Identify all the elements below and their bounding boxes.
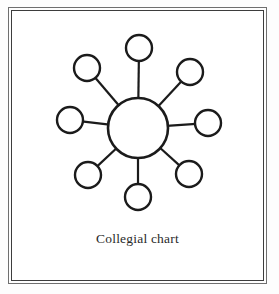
satellite-node-bottom-left[interactable]: [75, 162, 101, 188]
spoke-n-bottom-right: [159, 147, 180, 166]
spoke-n-top-right: [158, 81, 182, 107]
spoke-n-right: [167, 124, 197, 126]
satellite-node-top-right[interactable]: [177, 59, 203, 85]
satellite-node-top-left[interactable]: [74, 55, 100, 81]
hub-node[interactable]: [108, 98, 168, 158]
node-layer: [57, 35, 221, 210]
figure-content-area: Collegial chart: [11, 10, 264, 281]
satellite-node-bottom[interactable]: [125, 184, 151, 210]
satellite-node-bottom-right[interactable]: [176, 161, 202, 187]
satellite-node-top[interactable]: [126, 35, 152, 61]
satellite-node-left[interactable]: [57, 107, 83, 133]
figure-caption: Collegial chart: [11, 231, 264, 247]
satellite-node-right[interactable]: [195, 110, 221, 136]
spoke-n-left: [82, 121, 110, 124]
spoke-n-bottom-left: [97, 148, 117, 167]
figure-page: Collegial chart: [0, 0, 279, 294]
spoke-n-top-left: [95, 77, 120, 106]
